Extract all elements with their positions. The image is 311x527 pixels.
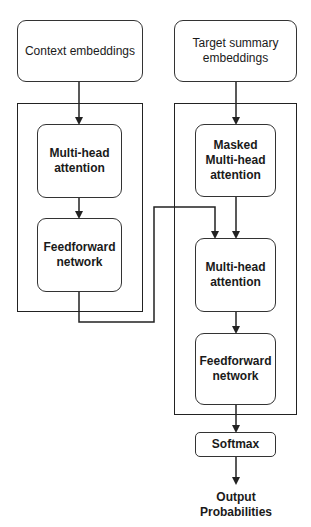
encoder-ff-label: Feedforward network xyxy=(38,240,121,270)
decoder-ff-box: Feedforward network xyxy=(195,333,276,405)
decoder-masked-mha-label: Masked Multi-head attention xyxy=(196,138,275,183)
target-embeddings-box: Target summary embeddings xyxy=(174,20,297,82)
output-label: Output Probabilities xyxy=(186,490,286,520)
encoder-ff-box: Feedforward network xyxy=(37,218,122,292)
target-embeddings-label: Target summary embeddings xyxy=(175,36,296,66)
softmax-box: Softmax xyxy=(195,432,276,457)
decoder-mha-box: Multi-head attention xyxy=(195,238,276,312)
decoder-ff-label: Feedforward network xyxy=(196,354,275,384)
decoder-masked-mha-box: Masked Multi-head attention xyxy=(195,124,276,197)
decoder-mha-label: Multi-head attention xyxy=(196,260,275,290)
encoder-mha-label: Multi-head attention xyxy=(38,146,121,176)
context-embeddings-label: Context embeddings xyxy=(25,44,135,59)
output-label-line2: Probabilities xyxy=(186,505,286,520)
encoder-mha-box: Multi-head attention xyxy=(37,124,122,198)
context-embeddings-box: Context embeddings xyxy=(17,20,143,82)
softmax-label: Softmax xyxy=(212,437,259,452)
output-label-line1: Output xyxy=(186,490,286,505)
